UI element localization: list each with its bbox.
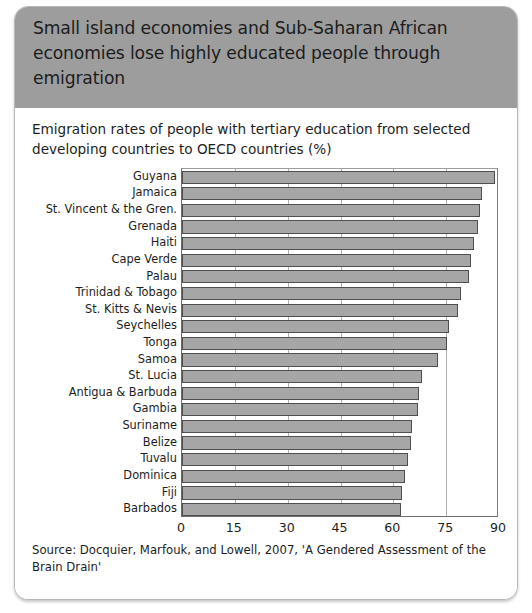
- bar: [182, 287, 461, 300]
- chart-plot-area: [181, 168, 498, 517]
- category-label: Trinidad & Tobago: [76, 286, 177, 298]
- category-label: Fiji: [162, 486, 177, 498]
- category-label: Gambia: [133, 402, 177, 414]
- x-tick-label: 30: [279, 520, 295, 535]
- bar-row: [182, 468, 499, 485]
- bar: [182, 304, 458, 317]
- source-note: Source: Docquier, Marfouk, and Lowell, 2…: [32, 542, 495, 575]
- bar-row: [182, 335, 499, 352]
- bar-row: [182, 402, 499, 419]
- category-label: Suriname: [122, 419, 177, 431]
- bar-row: [182, 186, 499, 203]
- bar: [182, 187, 482, 200]
- bar-row: [182, 501, 499, 518]
- category-label: Cape Verde: [112, 253, 177, 265]
- category-label: Samoa: [138, 353, 177, 365]
- figure-title: Small island economies and Sub-Saharan A…: [33, 16, 505, 91]
- bar-row: [182, 235, 499, 252]
- category-label: Barbados: [123, 502, 177, 514]
- category-label: Haiti: [151, 236, 177, 248]
- x-tick-label: 15: [226, 520, 242, 535]
- category-label: Grenada: [128, 220, 177, 232]
- category-label: Tonga: [144, 336, 177, 348]
- bar: [182, 220, 478, 233]
- bar-row: [182, 252, 499, 269]
- category-label: St. Kitts & Nevis: [85, 303, 177, 315]
- bar: [182, 171, 495, 184]
- figure-body: Emigration rates of people with tertiary…: [15, 108, 517, 599]
- bar-row: [182, 169, 499, 186]
- bar-row: [182, 352, 499, 369]
- figure-header-band: Small island economies and Sub-Saharan A…: [15, 7, 517, 108]
- category-label: Belize: [143, 436, 177, 448]
- bar: [182, 453, 408, 466]
- x-tick-label: 90: [490, 520, 506, 535]
- bar: [182, 337, 447, 350]
- bar-row: [182, 418, 499, 435]
- category-label: Jamaica: [132, 186, 177, 198]
- category-label: Tuvalu: [140, 452, 177, 464]
- category-label: Dominica: [123, 469, 177, 481]
- bar: [182, 320, 449, 333]
- category-label: Guyana: [133, 170, 177, 182]
- category-axis-labels: GuyanaJamaicaSt. Vincent & the Gren.Gren…: [15, 168, 181, 517]
- bar: [182, 503, 401, 516]
- bar-row: [182, 435, 499, 452]
- bar: [182, 270, 469, 283]
- bar-row: [182, 368, 499, 385]
- category-label: Antigua & Barbuda: [69, 386, 177, 398]
- category-label: Seychelles: [116, 319, 177, 331]
- bar-row: [182, 485, 499, 502]
- bar-row: [182, 319, 499, 336]
- figure-card: Small island economies and Sub-Saharan A…: [14, 6, 518, 600]
- x-tick-label: 75: [437, 520, 453, 535]
- bar-row: [182, 202, 499, 219]
- bar: [182, 486, 402, 499]
- bar: [182, 420, 412, 433]
- bar-row: [182, 269, 499, 286]
- bar-row: [182, 219, 499, 236]
- bar: [182, 470, 405, 483]
- bar: [182, 353, 438, 366]
- category-label: St. Lucia: [128, 369, 177, 381]
- bar: [182, 403, 418, 416]
- x-tick-label: 45: [331, 520, 347, 535]
- bar: [182, 237, 474, 250]
- bar: [182, 370, 422, 383]
- x-tick-label: 0: [177, 520, 185, 535]
- bar-row: [182, 385, 499, 402]
- bar: [182, 387, 419, 400]
- category-label: Palau: [146, 270, 177, 282]
- chart-plot-wrapper: GuyanaJamaicaSt. Vincent & the Gren.Gren…: [15, 168, 517, 538]
- bar: [182, 254, 471, 267]
- bar-row: [182, 302, 499, 319]
- chart-subtitle: Emigration rates of people with tertiary…: [32, 120, 503, 159]
- bar: [182, 436, 411, 449]
- bar-row: [182, 285, 499, 302]
- bar: [182, 204, 480, 217]
- value-axis-ticks: 0153045607590: [181, 520, 498, 540]
- x-tick-label: 60: [384, 520, 400, 535]
- category-label: St. Vincent & the Gren.: [46, 203, 177, 215]
- bar-row: [182, 452, 499, 469]
